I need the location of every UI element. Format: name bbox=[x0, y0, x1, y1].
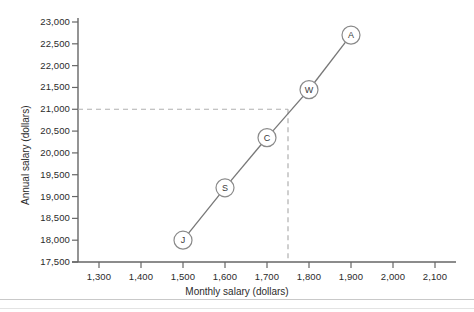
data-point-label: C bbox=[258, 129, 276, 147]
data-point-label: S bbox=[216, 179, 234, 197]
x-tick-label: 2,100 bbox=[405, 271, 465, 282]
series-segment bbox=[273, 96, 303, 130]
figure-bottom-rule-secondary bbox=[0, 308, 474, 309]
y-tick-label: 22,000 bbox=[14, 60, 70, 71]
chart-canvas bbox=[0, 0, 474, 312]
chart-figure: 17,50018,00018,50019,00019,50020,00020,5… bbox=[0, 0, 474, 312]
figure-bottom-rule bbox=[0, 299, 474, 300]
data-point-label: J bbox=[174, 231, 192, 249]
y-tick-label: 23,000 bbox=[14, 16, 70, 27]
series-segment bbox=[314, 42, 345, 82]
data-point-label: W bbox=[300, 81, 318, 99]
series-segment bbox=[231, 145, 261, 181]
y-tick-label: 18,000 bbox=[14, 234, 70, 245]
series-segment bbox=[189, 195, 220, 233]
y-tick-label: 22,500 bbox=[14, 38, 70, 49]
y-axis-title: Annual salary (dollars) bbox=[20, 106, 31, 206]
y-tick-label: 17,500 bbox=[14, 256, 70, 267]
data-point-label: A bbox=[342, 26, 360, 44]
y-tick-label: 18,500 bbox=[14, 212, 70, 223]
x-axis-title: Monthly salary (dollars) bbox=[0, 286, 474, 297]
y-tick-label: 21,500 bbox=[14, 81, 70, 92]
